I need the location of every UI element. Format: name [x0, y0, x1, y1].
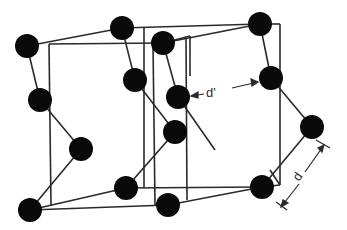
atom [18, 198, 42, 222]
atom [28, 88, 52, 112]
atom [151, 31, 175, 55]
lattice-svg: d' d [0, 0, 347, 230]
crystal-lattice-diagram: d' d [0, 0, 347, 230]
d-prime-label: d' [206, 85, 216, 100]
atom [300, 115, 324, 139]
atom [250, 175, 274, 199]
atom [110, 16, 134, 40]
atom [163, 120, 187, 144]
atom [114, 176, 138, 200]
d-dimension [276, 140, 330, 210]
d-label: d [289, 169, 305, 184]
atom [123, 68, 147, 92]
atom [156, 193, 180, 217]
atom [259, 66, 283, 90]
unit-cell-frame [27, 24, 280, 210]
atom [166, 85, 190, 109]
atom [248, 12, 272, 36]
d-prime-dimension [191, 79, 258, 98]
atom [69, 137, 93, 161]
atom [15, 34, 39, 58]
